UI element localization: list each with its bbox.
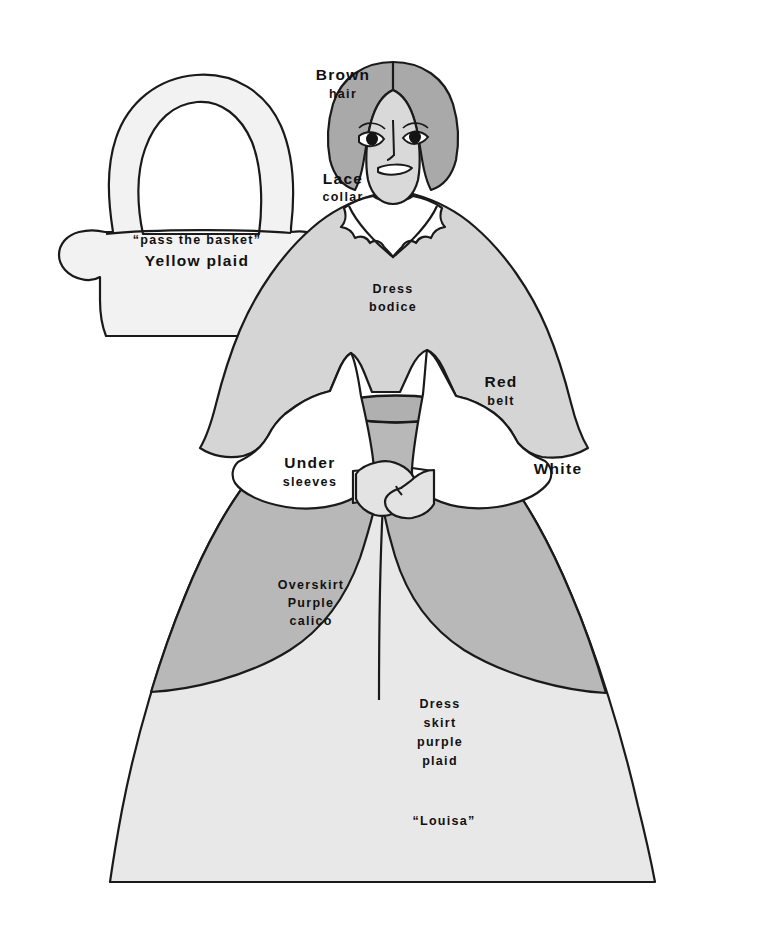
brown-hair-label-line-1: Brown [316,66,371,83]
dress-bodice-label-line-2: bodice [369,300,417,314]
doll-name-label: “Louisa” [412,814,475,828]
illustration-canvas: “pass the basket” Yellow plaid Dress bod… [0,0,773,946]
lace-collar-label-line-1: Lace [323,170,364,187]
overskirt-label-line-3: calico [289,614,332,628]
basket-label-line-2: Yellow plaid [145,252,249,269]
overskirt-label-line-1: Overskirt [278,578,345,592]
basket-label: “pass the basket” Yellow plaid [133,233,261,269]
dress-skirt-label-line-1: Dress [419,697,460,711]
dress-skirt-label-line-2: skirt [424,716,457,730]
paper-doll-illustration: “pass the basket” Yellow plaid Dress bod… [0,0,773,946]
brown-hair-label-line-2: hair [329,87,357,101]
dress-skirt-label-line-4: plaid [422,754,458,768]
dress-skirt-label-line-3: purple [417,735,463,749]
head-group: Brown hair Lace collar [316,62,458,204]
red-belt-label-line-1: Red [484,373,517,390]
left-eye-pupil [366,133,378,146]
dress-bodice-label-line-1: Dress [372,282,413,296]
red-belt-label-line-2: belt [487,394,514,408]
lace-collar-label-line-2: collar [322,190,363,204]
under-sleeves-label-line-2: sleeves [283,475,337,489]
white-label: White [534,460,583,477]
overskirt-label-line-2: Purple [288,596,335,610]
under-sleeves-label-line-1: Under [284,454,335,471]
basket-label-line-1: “pass the basket” [133,233,261,247]
right-eye-pupil [409,131,421,144]
left-eye [359,132,384,146]
